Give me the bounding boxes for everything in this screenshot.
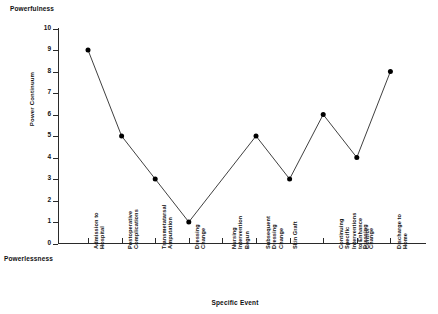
series-data-point bbox=[321, 112, 326, 117]
series-data-point bbox=[354, 155, 359, 160]
series-data-point bbox=[86, 48, 91, 53]
chart-container: Powerfulness Powerlessness Power Continu… bbox=[0, 0, 438, 314]
plot-series-layer bbox=[0, 0, 438, 314]
x-axis-title: Specific Event bbox=[180, 299, 290, 306]
series-data-point bbox=[254, 134, 259, 139]
series-data-point bbox=[287, 177, 292, 182]
series-data-point bbox=[388, 69, 393, 74]
series-data-point bbox=[153, 177, 158, 182]
series-data-point bbox=[119, 134, 124, 139]
series-markers bbox=[86, 48, 393, 225]
series-line bbox=[88, 50, 390, 222]
series-data-point bbox=[186, 220, 191, 225]
